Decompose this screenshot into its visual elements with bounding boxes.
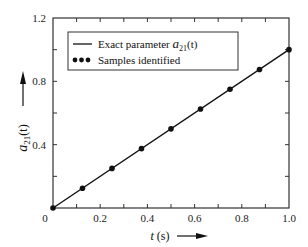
sample-point [50, 205, 56, 211]
y-tick-label: 0.4 [32, 139, 46, 151]
plot-area: 0.20.40.60.81.000.40.81.2Exact parameter… [15, 12, 296, 243]
sample-point [227, 86, 233, 92]
legend-marker-swatch [73, 58, 78, 63]
legend-marker-swatch [79, 58, 84, 63]
y-tick-label: 1.2 [32, 12, 46, 24]
sample-point [109, 166, 115, 172]
sample-point [80, 185, 86, 191]
y-tick-label: 0.8 [32, 75, 46, 87]
sample-point [198, 106, 204, 112]
sample-point [139, 146, 145, 152]
y-axis-title: a21(t) [15, 124, 32, 151]
svg-text:a21(t): a21(t) [15, 124, 32, 151]
legend-marker-swatch [86, 58, 91, 63]
x-axis-title: t (s) [150, 229, 169, 243]
x-tick-label: 0.6 [188, 212, 202, 224]
x-axis-arrow-icon [196, 233, 208, 239]
legend-label-samples: Samples identified [98, 54, 181, 66]
sample-point [168, 126, 174, 132]
origin-label: 0 [42, 212, 48, 224]
x-tick-label: 0.8 [235, 212, 249, 224]
chart: 0.20.40.60.81.000.40.81.2Exact parameter… [0, 0, 308, 247]
x-tick-label: 1.0 [282, 212, 296, 224]
y-axis-arrow-icon [20, 71, 26, 84]
sample-point [286, 47, 292, 53]
sample-point [257, 67, 263, 73]
x-tick-label: 0.4 [141, 212, 155, 224]
x-tick-label: 0.2 [93, 212, 107, 224]
